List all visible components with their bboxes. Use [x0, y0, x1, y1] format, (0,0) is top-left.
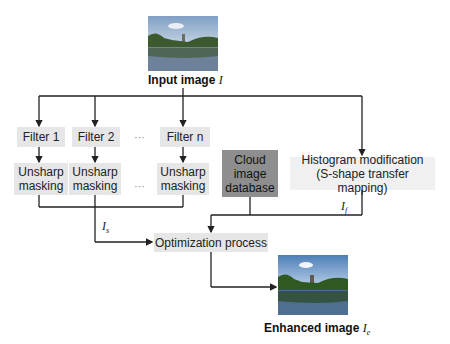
symbol-is: Is — [102, 219, 109, 235]
filter-1-box: Filter 1 — [17, 127, 65, 147]
unsharp-ellipsis: ··· — [134, 180, 145, 192]
filter-n-box: Filter n — [160, 127, 210, 147]
enhanced-image-thumbnail — [278, 255, 348, 315]
filter-2-box: Filter 2 — [72, 127, 120, 147]
unsharp-masking-1-box: Unsharp masking — [14, 163, 68, 195]
enhanced-image-label: Enhanced image Ie — [264, 321, 370, 337]
input-image-thumbnail — [148, 16, 218, 71]
unsharp-masking-2-box: Unsharp masking — [69, 163, 121, 195]
cloud-image-database-box: Cloud image database — [222, 150, 278, 197]
filter-ellipsis: ··· — [134, 131, 145, 143]
optimization-process-box: Optimization process — [154, 233, 268, 252]
histogram-modification-box: Histogram modification (S-shape transfer… — [290, 157, 435, 190]
unsharp-masking-n-box: Unsharp masking — [157, 163, 209, 195]
input-image-label: Input image I — [148, 73, 223, 88]
symbol-if: If — [341, 199, 347, 215]
